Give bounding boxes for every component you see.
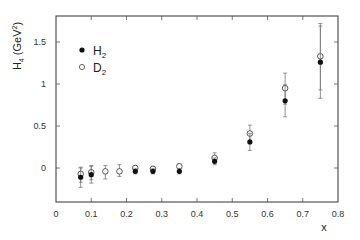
data-point-filled-circle-icon [89,172,94,177]
data-point-open-circle-icon [177,164,183,170]
data-series [78,24,323,188]
legend: H2 D2 [79,44,106,77]
x-tick-label: 0.3 [155,209,168,219]
x-tick-label: 0.6 [261,209,274,219]
y-axis-ticks: 00.511.5 [33,37,338,173]
x-tick-label: 0.5 [226,209,239,219]
y-tick-label: 1.5 [33,37,46,47]
legend-marker-open-circle-icon [79,64,84,69]
series-h2 [78,26,323,187]
data-point-open-circle-icon [103,169,109,175]
data-point-filled-circle-icon [212,159,217,164]
data-point-filled-circle-icon [133,169,138,174]
x-tick-label: 0.8 [332,209,345,219]
y-axis-title: H4 (GeV2) [11,22,25,70]
legend-marker-filled-circle-icon [79,47,84,52]
legend-label-d2: D2 [93,61,107,77]
chart: 00.10.20.30.40.50.60.70.8 00.511.5 H2 D2… [0,0,360,240]
data-point-filled-circle-icon [78,175,83,180]
data-point-filled-circle-icon [177,169,182,174]
y-tick-label: 0 [41,163,46,173]
data-point-filled-circle-icon [283,98,288,103]
legend-label-h2: H2 [93,44,107,60]
data-point-filled-circle-icon [318,60,323,65]
x-tick-label: 0.7 [296,209,309,219]
data-point-filled-circle-icon [150,169,155,174]
x-tick-label: 0.4 [191,209,204,219]
y-tick-label: 0.5 [33,121,46,131]
x-axis-title: x [321,221,327,233]
x-tick-label: 0.1 [85,209,98,219]
x-tick-label: 0 [53,209,58,219]
x-tick-label: 0.2 [120,209,133,219]
y-tick-label: 1 [41,79,46,89]
data-point-filled-circle-icon [247,139,252,144]
data-point-open-circle-icon [117,169,123,175]
